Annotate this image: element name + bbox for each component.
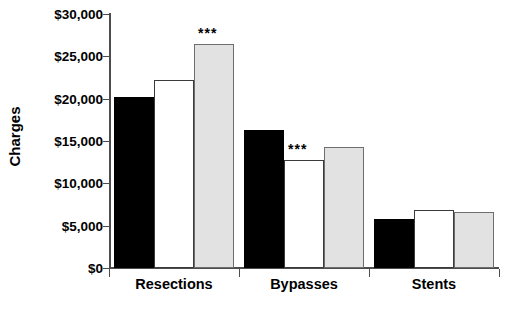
bar-bypasses-black bbox=[244, 130, 284, 268]
bar-resections-gray bbox=[194, 44, 234, 268]
y-axis-title: Charges bbox=[0, 0, 28, 272]
significance-marker: *** bbox=[198, 26, 217, 40]
y-axis-title-text: Charges bbox=[6, 106, 23, 166]
bar-bypasses-white bbox=[284, 160, 324, 268]
y-axis-tick-label: $30,000 bbox=[54, 7, 103, 22]
y-axis-tick-mark bbox=[103, 183, 109, 184]
bar-resections-white bbox=[154, 80, 194, 268]
y-axis-line bbox=[109, 13, 111, 269]
y-axis-tick-mark bbox=[103, 14, 109, 15]
plot-area: ****** bbox=[109, 14, 499, 268]
y-axis-tick-mark bbox=[103, 141, 109, 142]
y-axis-tick-label: $0 bbox=[88, 261, 103, 276]
y-axis-tick-label: $5,000 bbox=[62, 218, 103, 233]
bar-bypasses-gray bbox=[324, 147, 364, 268]
y-axis-tick-label: $10,000 bbox=[54, 176, 103, 191]
bar-stents-gray bbox=[454, 212, 494, 268]
significance-marker: *** bbox=[288, 142, 307, 156]
y-axis-tick-mark bbox=[103, 56, 109, 57]
bar-resections-black bbox=[114, 97, 154, 268]
y-axis-tick-label: $15,000 bbox=[54, 134, 103, 149]
y-axis-tick-mark bbox=[103, 99, 109, 100]
y-axis-tick-labels: $0$5,000$10,000$15,000$20,000$25,000$30,… bbox=[28, 0, 106, 272]
y-axis-tick-label: $25,000 bbox=[54, 49, 103, 64]
x-axis-category-label-bypasses: Bypasses bbox=[270, 276, 338, 292]
bar-stents-white bbox=[414, 210, 454, 268]
x-axis-category-labels: ResectionsBypassesStents bbox=[109, 276, 499, 298]
bar-chart: Charges $0$5,000$10,000$15,000$20,000$25… bbox=[0, 0, 515, 314]
x-axis-group-tick bbox=[499, 269, 500, 277]
x-axis-category-label-stents: Stents bbox=[412, 276, 456, 292]
bar-stents-black bbox=[374, 219, 414, 268]
y-axis-tick-label: $20,000 bbox=[54, 91, 103, 106]
x-axis-category-label-resections: Resections bbox=[135, 276, 212, 292]
y-axis-tick-mark bbox=[103, 226, 109, 227]
